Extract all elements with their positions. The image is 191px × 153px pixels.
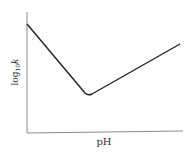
chart: pH log10k (0, 0, 191, 153)
x-axis (27, 131, 183, 133)
y-axis-label: log10k (10, 58, 21, 85)
data-line (27, 24, 180, 95)
svg-text:log10k: log10k (10, 58, 21, 85)
x-axis-label: pH (96, 136, 111, 147)
